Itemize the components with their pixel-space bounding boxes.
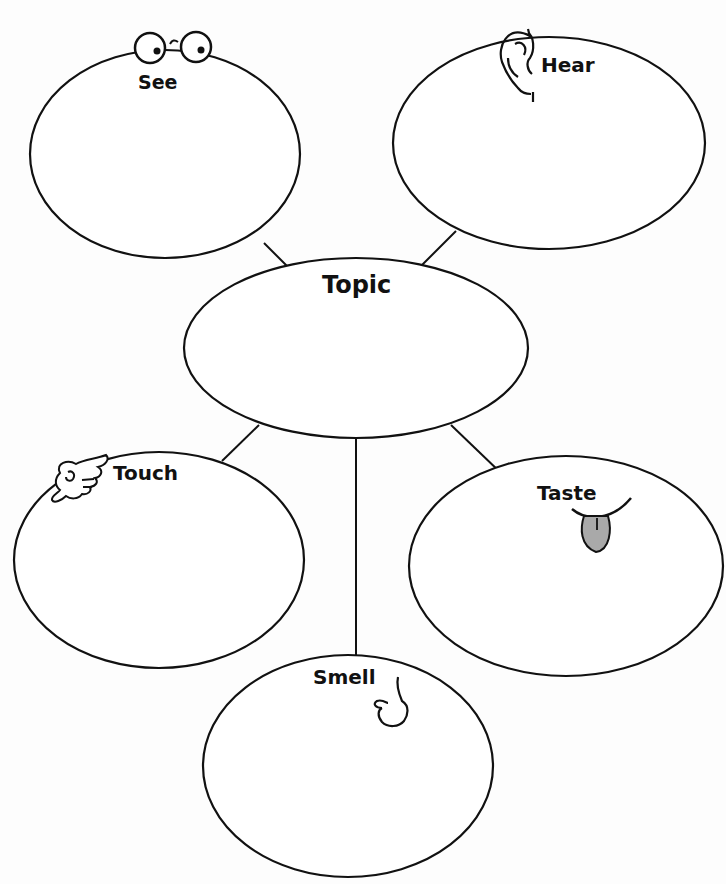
five-senses-diagram: [0, 0, 726, 884]
taste-label: Taste: [537, 481, 597, 505]
smell-label: Smell: [313, 665, 376, 689]
connector-touch: [222, 425, 259, 461]
connector-hear: [420, 231, 456, 267]
see-label: See: [138, 71, 177, 93]
connector-see: [264, 243, 289, 268]
connector-taste: [451, 425, 502, 474]
touch-label: Touch: [113, 461, 178, 485]
hear-label: Hear: [541, 53, 595, 77]
topic-label: Topic: [322, 271, 391, 299]
